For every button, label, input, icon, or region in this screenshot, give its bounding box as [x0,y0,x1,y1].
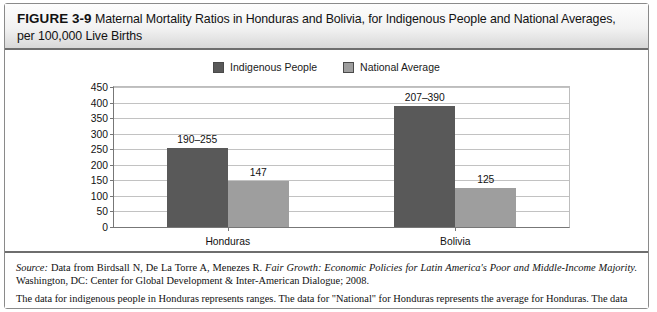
chart-legend: Indigenous People National Average [5,61,648,73]
y-axis-tick-mark [110,149,114,150]
source-plain-2: Washington, DC: Center for Global Develo… [16,275,369,286]
y-axis-tick-label: 300 [91,128,108,139]
figure-title-text: Maternal Mortality Ratios in Honduras an… [17,12,616,43]
data-note: The data for indigenous people in Hondur… [16,293,637,306]
x-axis-tick-mark [228,227,229,231]
source-note: Source: Data from Birdsall N, De La Torr… [16,262,637,287]
y-axis-tick-mark [110,227,114,228]
bar-data-label: 207–390 [405,92,445,103]
y-axis-tick-label: 400 [91,97,108,108]
x-axis-tick-mark [455,227,456,231]
source-label: Source: [16,262,48,273]
y-axis-tick-label: 150 [91,175,108,186]
grid-line [114,87,569,88]
bar-data-label: 125 [477,174,494,185]
y-axis-tick-label: 100 [91,190,108,201]
bar-honduras-indigenous [167,148,228,227]
legend-label: National Average [360,61,440,73]
y-axis-tick-label: 450 [91,82,108,93]
y-axis-tick-mark [110,134,114,135]
figure-notes: Source: Data from Birdsall N, De La Torr… [5,255,648,308]
y-axis-tick-label: 250 [91,144,108,155]
legend-label: Indigenous People [230,61,317,73]
y-axis-tick-mark [110,196,114,197]
y-axis-tick-label: 0 [102,222,108,233]
source-plain-1: Data from Birdsall N, De La Torre A, Men… [48,262,265,273]
y-axis-tick-label: 200 [91,159,108,170]
figure-title-band: FIGURE 3-9 Maternal Mortality Ratios in … [5,4,648,50]
figure-number: FIGURE 3-9 [17,11,92,26]
bar-honduras-national [228,181,289,227]
grid-line [114,118,569,119]
chart-panel: Indigenous People National Average Mater… [5,52,648,253]
page-title: FIGURE 3-9 Maternal Mortality Ratios in … [17,10,636,45]
y-axis-tick-mark [110,211,114,212]
bar-data-label: 190–255 [177,134,217,145]
y-axis-tick-label: 350 [91,113,108,124]
y-axis-tick-mark [110,103,114,104]
legend-item-indigenous-people: Indigenous People [213,61,317,73]
bar-bolivia-national [455,188,516,227]
legend-swatch-icon [213,62,224,73]
x-axis-category-label: Bolivia [440,236,470,247]
legend-swatch-icon [343,62,354,73]
y-axis-tick-mark [110,165,114,166]
grid-line [114,103,569,104]
y-axis-tick-mark [110,180,114,181]
source-title: Fair Growth: Economic Policies for Latin… [265,262,637,273]
bar-data-label: 147 [250,167,267,178]
bar-bolivia-indigenous [394,106,455,227]
legend-item-national-average: National Average [343,61,440,73]
chart-plot-area: 050100150200250300350400450190–255147Hon… [113,86,570,228]
y-axis-tick-label: 50 [97,206,108,217]
figure-container: FIGURE 3-9 Maternal Mortality Ratios in … [0,0,657,312]
x-axis-category-label: Honduras [205,236,250,247]
y-axis-tick-mark [110,87,114,88]
y-axis-tick-mark [110,118,114,119]
